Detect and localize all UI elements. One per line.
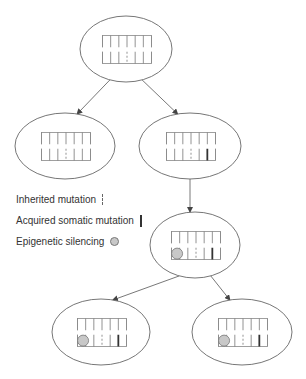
legend: Inherited mutation Acquired somatic muta… [16, 189, 142, 252]
arrow-grandchild-to-great-left [113, 276, 179, 300]
legend-label-epigenetic: Epigenetic silencing [16, 236, 104, 247]
chromosome-gap [102, 47, 153, 51]
arrow-root-to-child-left [77, 80, 110, 114]
gray-circle-icon [110, 237, 119, 246]
epigenetic-silencing-mark [172, 248, 183, 259]
epigenetic-silencing-mark [219, 335, 230, 346]
legend-label-acquired: Acquired somatic mutation [16, 215, 134, 226]
legend-item-inherited: Inherited mutation [16, 189, 142, 210]
legend-item-acquired: Acquired somatic mutation [16, 210, 142, 231]
cell-great-left [52, 299, 150, 365]
chromosome-gap [41, 144, 92, 148]
chromosome-gap [218, 330, 269, 334]
arrow-grandchild-to-great-right [211, 276, 230, 300]
chromosome-gap [77, 330, 128, 334]
epigenetic-silencing-mark [78, 335, 89, 346]
cell-child-right [139, 113, 241, 179]
arrow-root-to-child-right [142, 80, 178, 114]
chromosome-gap [171, 243, 222, 247]
legend-label-inherited: Inherited mutation [16, 194, 96, 205]
cell-root [80, 16, 172, 82]
cell-child-left [15, 113, 115, 179]
legend-item-epigenetic: Epigenetic silencing [16, 231, 142, 252]
cell-grandchild [150, 212, 240, 278]
solid-line-icon [140, 215, 142, 227]
cell-great-right [192, 299, 292, 365]
dashed-line-icon [102, 194, 103, 205]
chromosome-gap [166, 144, 217, 148]
